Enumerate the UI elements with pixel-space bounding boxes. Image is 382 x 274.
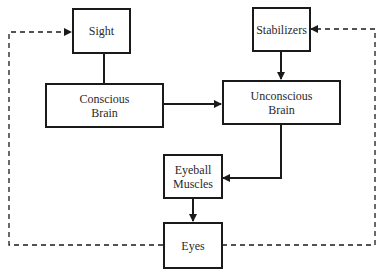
node-sight: Sight [72, 8, 131, 54]
node-conscious-brain: Conscious Brain [45, 83, 164, 128]
node-label-line1: Eyeball [175, 163, 212, 177]
node-label-line1: Conscious [79, 92, 129, 106]
node-label: Eyes [181, 239, 204, 253]
node-label-line2: Brain [268, 103, 295, 117]
node-label: Sight [89, 24, 114, 38]
edge-eyes-stabilizers-feedback [222, 29, 375, 245]
node-label-line2: Brain [91, 106, 118, 120]
node-label-line1: Unconscious [251, 89, 313, 103]
node-unconscious-brain: Unconscious Brain [222, 80, 341, 125]
node-label: Stabilizers [256, 23, 307, 37]
edge-unconscious-eyeball [223, 124, 281, 178]
node-eyeball-muscles: Eyeball Muscles [163, 154, 223, 199]
node-stabilizers: Stabilizers [252, 7, 311, 52]
node-label-line2: Muscles [173, 177, 213, 191]
edge-eyes-sight-feedback [9, 32, 163, 245]
node-eyes: Eyes [163, 222, 223, 269]
